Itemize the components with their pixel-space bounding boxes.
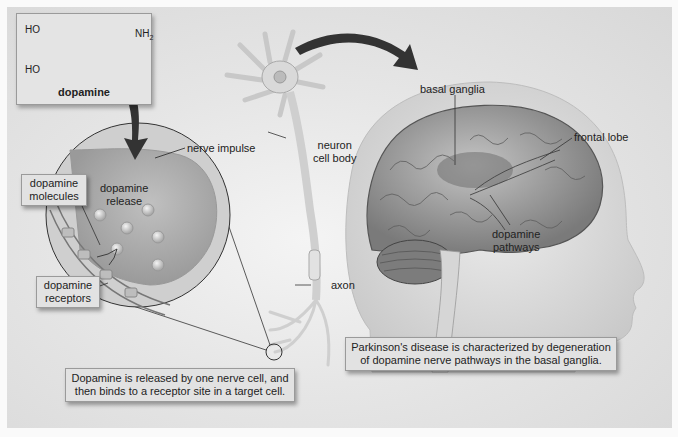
arrow-to-brain (295, 33, 418, 70)
label-dopamine-receptors: dopamine receptors (36, 276, 100, 308)
hydroxyl-bottom: HO (25, 64, 40, 75)
caption-dopamine-release: Dopamine is released by one nerve cell, … (65, 368, 295, 402)
label-neuron-cell-body: neuron cell body (313, 139, 356, 165)
molecule-name: dopamine (17, 86, 151, 98)
neuron (227, 32, 329, 365)
dopamine-molecule-box: HO HO NH2 dopamine (16, 13, 152, 105)
label-dopamine-pathways: dopamine pathways (492, 228, 540, 254)
label-dopamine-molecules: dopamine molecules (21, 174, 87, 206)
label-frontal-lobe: frontal lobe (574, 131, 628, 144)
hydroxyl-top: HO (25, 24, 40, 35)
label-basal-ganglia: basal ganglia (420, 83, 485, 96)
amine-group: NH2 (135, 28, 153, 41)
label-dopamine-release: dopamine release (100, 182, 148, 208)
label-nerve-impulse: nerve impulse (187, 142, 255, 155)
caption-parkinsons: Parkinson's disease is characterized by … (345, 337, 617, 371)
label-axon: axon (331, 279, 355, 292)
